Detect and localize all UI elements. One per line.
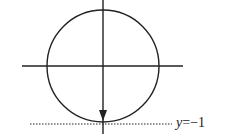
line-label: y=−1 [176, 116, 205, 130]
unit-circle-diagram [0, 0, 245, 138]
arrowhead-down-icon [99, 110, 107, 121]
label-equals: = [182, 115, 190, 130]
label-value: −1 [190, 115, 205, 130]
